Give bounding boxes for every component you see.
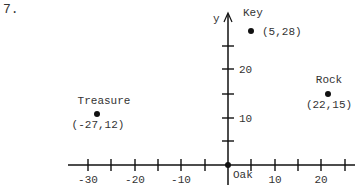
rock-point — [325, 91, 331, 97]
y-tick-label: 10 — [239, 113, 252, 125]
treasure-coord-label: (-27,12) — [72, 119, 125, 131]
x-tick-label: -20 — [125, 174, 145, 185]
x-tick-label: -10 — [171, 174, 191, 185]
treasure-point — [94, 111, 100, 117]
key-label: Key — [243, 7, 263, 19]
key-point — [248, 28, 254, 34]
oak-label: Oak — [233, 169, 253, 181]
rock-coord-label: (22,15) — [306, 99, 352, 111]
coordinate-plane: -30 -20 -10 10 20 10 20 y Key (5,28) Roc… — [0, 0, 355, 185]
rock-label: Rock — [316, 74, 343, 86]
y-axis-label: y — [213, 13, 220, 25]
key-coord-label: (5,28) — [262, 26, 302, 38]
x-tick-label: -30 — [78, 174, 98, 185]
treasure-label: Treasure — [78, 95, 131, 107]
x-tick-label: 20 — [314, 174, 327, 185]
y-tick-label: 20 — [239, 64, 252, 76]
oak-point — [225, 162, 231, 168]
x-tick-label: 10 — [268, 174, 281, 185]
